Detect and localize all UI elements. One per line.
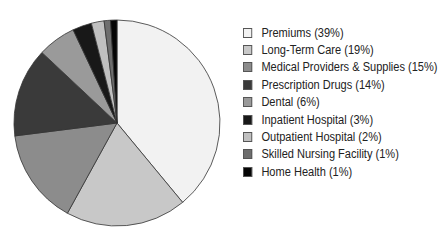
legend-item: Outpatient Hospital (2%) [243, 128, 438, 145]
legend-label: Outpatient Hospital (2%) [261, 130, 381, 144]
legend-swatch [243, 115, 252, 125]
chart-legend: Premiums (39%) Long-Term Care (19%) Medi… [243, 24, 445, 181]
legend-item: Premiums (39%) [243, 24, 438, 41]
legend-label: Home Health (1%) [261, 165, 352, 179]
legend-label: Prescription Drugs (14%) [261, 78, 384, 92]
legend-swatch [243, 80, 252, 90]
legend-swatch [243, 45, 252, 55]
legend-swatch [243, 62, 252, 72]
legend-item: Medical Providers & Supplies (15%) [243, 59, 438, 76]
legend-swatch [243, 132, 252, 142]
legend-swatch [243, 149, 252, 159]
legend-item: Dental (6%) [243, 94, 438, 111]
legend-item: Prescription Drugs (14%) [243, 76, 438, 93]
legend-item: Skilled Nursing Facility (1%) [243, 146, 438, 163]
legend-item: Long-Term Care (19%) [243, 41, 438, 58]
legend-item: Home Health (1%) [243, 163, 438, 180]
legend-label: Medical Providers & Supplies (15%) [261, 60, 437, 74]
legend-label: Inpatient Hospital (3%) [261, 113, 373, 127]
legend-label: Skilled Nursing Facility (1%) [261, 147, 398, 161]
legend-label: Long-Term Care (19%) [261, 43, 373, 57]
legend-swatch [243, 167, 252, 177]
legend-label: Dental (6%) [261, 95, 319, 109]
pie-chart [0, 0, 240, 233]
legend-swatch [243, 28, 252, 38]
legend-label: Premiums (39%) [261, 26, 343, 40]
legend-swatch [243, 97, 252, 107]
legend-item: Inpatient Hospital (3%) [243, 111, 438, 128]
